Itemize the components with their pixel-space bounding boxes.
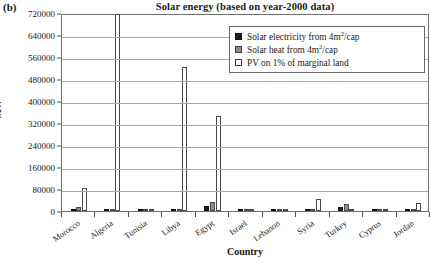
y-tick-label: 480000: [28, 75, 55, 85]
bar: [177, 209, 182, 211]
x-axis-title: Country: [61, 246, 429, 257]
bar: [277, 209, 282, 211]
bar: [71, 209, 76, 211]
chart-legend: Solar electricity from 4m2/capSolar heat…: [229, 26, 425, 73]
bar: [305, 209, 310, 211]
bar: [182, 67, 187, 211]
bar: [344, 204, 349, 211]
legend-label-text: PV on 1% of marginal land: [247, 58, 349, 68]
bar: [238, 209, 243, 211]
legend-label-suffix: /cap: [344, 33, 359, 43]
bar: [416, 203, 421, 211]
bar: [271, 209, 276, 211]
y-tick-label: 80000: [33, 185, 56, 195]
bar: [349, 209, 354, 211]
bar: [316, 199, 321, 211]
legend-item: PV on 1% of marginal land: [235, 56, 419, 69]
y-tick-label: 160000: [28, 163, 55, 173]
gridline: [62, 103, 428, 104]
bar: [171, 209, 176, 211]
legend-swatch-icon: [235, 59, 242, 66]
chart-title: Solar energy (based on year-2000 data): [60, 1, 430, 12]
legend-item: Solar electricity from 4m2/cap: [235, 30, 419, 43]
gridline: [62, 191, 428, 192]
gridline: [62, 169, 428, 170]
gridline: [62, 125, 428, 126]
y-tick-label: 720000: [28, 9, 55, 19]
legend-label-text: Solar electricity from 4m: [247, 33, 341, 43]
bar: [377, 209, 382, 211]
y-tick-label: 320000: [28, 119, 55, 129]
bar: [104, 209, 109, 211]
bar: [210, 202, 215, 211]
gridline: [62, 81, 428, 82]
bar: [405, 209, 410, 211]
legend-label: Solar electricity from 4m2/cap: [247, 30, 360, 42]
bar: [143, 209, 148, 211]
bar: [372, 209, 377, 211]
bar: [110, 209, 115, 211]
bar: [204, 206, 209, 211]
bar: [283, 209, 288, 211]
y-tick-label: 640000: [28, 31, 55, 41]
legend-item: Solar heat from 4m2/cap: [235, 43, 419, 56]
bar: [338, 207, 343, 211]
legend-label: PV on 1% of marginal land: [247, 58, 349, 68]
bar: [216, 116, 221, 211]
y-axis-labels: 7200006400005600004800004000003200002400…: [0, 0, 61, 213]
bar: [249, 209, 254, 211]
bar: [138, 209, 143, 211]
y-axis-title: MW: [0, 100, 3, 118]
y-tick-label: 560000: [28, 53, 55, 63]
gridline: [62, 147, 428, 148]
legend-swatch-icon: [235, 46, 242, 53]
legend-label-suffix: /cap: [322, 46, 337, 56]
bar: [149, 209, 154, 211]
bar: [244, 209, 249, 211]
figure-panel: (b) Solar energy (based on year-2000 dat…: [0, 0, 430, 263]
y-tick-label: 400000: [28, 97, 55, 107]
y-tick-label: 240000: [28, 141, 55, 151]
legend-label-text: Solar heat from 4m: [247, 46, 319, 56]
legend-label: Solar heat from 4m2/cap: [247, 43, 338, 55]
bar: [383, 209, 388, 211]
bar: [76, 207, 81, 211]
bar: [115, 14, 120, 211]
bar: [310, 209, 315, 211]
bar: [411, 209, 416, 211]
legend-swatch-icon: [235, 33, 242, 40]
